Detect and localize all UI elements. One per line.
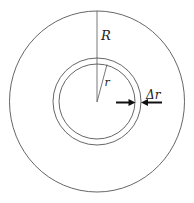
thickness-arrow-left <box>116 99 136 106</box>
label-R: R <box>100 28 111 43</box>
annulus-diagram: R r Δr <box>0 0 194 203</box>
label-delta-r: Δr <box>145 88 162 102</box>
label-r: r <box>105 76 111 89</box>
